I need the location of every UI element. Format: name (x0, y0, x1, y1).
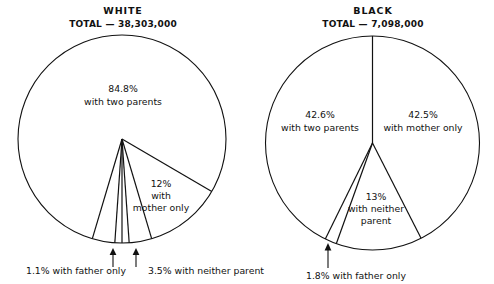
chart-black-arrow-father-only (325, 243, 332, 251)
chart-white-label-mother-only: 12% with mother only (133, 178, 190, 213)
chart-white-callout-neither-parent: 3.5% with neither parent (148, 265, 264, 276)
chart-white: WHITE TOTAL — 38,303,000 84.8% with two … (18, 5, 264, 276)
chart-black-label-mother-only: 42.5% with mother only (383, 109, 463, 133)
chart-white-arrow-neither-parent (133, 248, 140, 255)
chart-black: BLACK TOTAL — 7,098,000 42.6% with two p… (266, 5, 480, 281)
chart-white-title: WHITE (103, 5, 142, 16)
svg-text:with two parents: with two parents (84, 96, 162, 107)
chart-white-spoke-father-only (115, 139, 122, 243)
chart-black-label-two-parents: 42.6% with two parents (281, 109, 359, 133)
svg-text:42.5%: 42.5% (408, 109, 438, 120)
svg-text:with mother only: with mother only (383, 122, 463, 133)
chart-white-leader-neither-parent (133, 248, 140, 267)
chart-white-label-two-parents: 84.8% with two parents (84, 83, 162, 107)
svg-text:12%: 12% (151, 178, 172, 189)
svg-text:mother only: mother only (133, 202, 190, 213)
chart-white-arrow-father-only (110, 248, 117, 255)
svg-text:42.6%: 42.6% (305, 109, 335, 120)
chart-black-title: BLACK (353, 5, 392, 16)
pie-chart-figure: WHITE TOTAL — 38,303,000 84.8% with two … (0, 0, 494, 284)
chart-black-total: TOTAL — 7,098,000 (322, 19, 423, 29)
chart-black-label-neither-parent: 13% with neither parent (348, 191, 404, 226)
svg-text:with two parents: with two parents (281, 122, 359, 133)
chart-white-spoke-father-only-b (122, 139, 129, 243)
chart-white-callout-father-only: 1.1% with father only (26, 265, 126, 276)
svg-text:parent: parent (361, 215, 392, 226)
svg-text:with neither: with neither (348, 203, 404, 214)
svg-text:with: with (151, 190, 171, 201)
svg-text:13%: 13% (366, 191, 387, 202)
chart-white-spoke-neither-parent (92, 139, 122, 239)
chart-black-callout-father-only: 1.8% with father only (306, 270, 406, 281)
svg-text:84.8%: 84.8% (108, 83, 138, 94)
chart-white-total: TOTAL — 38,303,000 (69, 19, 177, 29)
chart-black-leader-father-only (325, 243, 332, 268)
